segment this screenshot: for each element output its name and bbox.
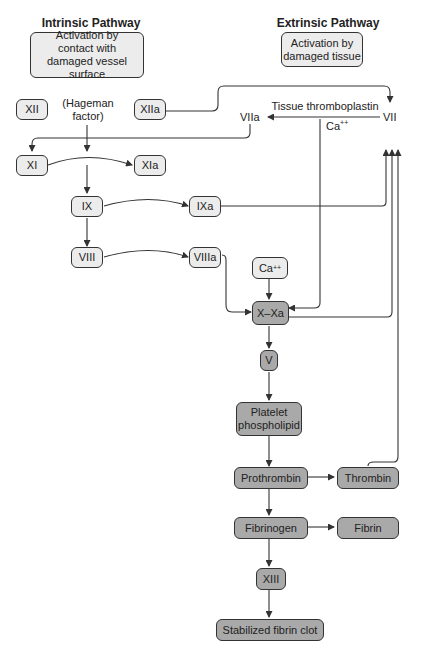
fibrinogen: Fibrinogen <box>234 517 308 539</box>
calcium-box: Ca++ <box>252 257 288 279</box>
factor-xia: XIa <box>134 155 166 176</box>
thrombin: Thrombin <box>337 467 399 489</box>
prothrombin: Prothrombin <box>234 467 308 489</box>
stabilized-fibrin-clot-label: Stabilized fibrin clot <box>223 624 318 637</box>
factor-xiii-label: XIII <box>263 573 280 586</box>
extrinsic-trigger-text: Activation by damaged tissue <box>282 37 362 63</box>
factor-v-label: V <box>265 354 272 367</box>
factor-xi-label: XI <box>27 159 37 172</box>
factor-viia-label: VIIa <box>240 111 260 124</box>
thrombin-label: Thrombin <box>345 472 391 485</box>
factor-viii-label: VIII <box>79 251 96 264</box>
factor-ixa: IXa <box>189 196 221 217</box>
calcium-label-top: Ca++ <box>326 120 348 133</box>
fibrinogen-label: Fibrinogen <box>245 522 297 535</box>
tissue-thromboplastin-label: Tissue thromboplastin <box>270 100 380 113</box>
factor-ix: IX <box>71 196 103 217</box>
fibrin: Fibrin <box>337 517 399 539</box>
factor-xiia-label: XIIa <box>140 103 160 116</box>
stabilized-fibrin-clot: Stabilized fibrin clot <box>216 619 324 641</box>
factor-xi: XI <box>16 155 48 176</box>
factor-viii: VIII <box>71 247 103 268</box>
factor-xia-label: XIa <box>142 159 159 172</box>
calcium-box-base: Ca <box>259 262 273 275</box>
factor-xiia: XIIa <box>134 99 166 120</box>
hageman-factor-label: (Hageman factor) <box>62 97 114 123</box>
factor-ix-label: IX <box>82 200 92 213</box>
factor-xiii: XIII <box>256 568 286 590</box>
factor-v: V <box>260 350 278 371</box>
prothrombin-label: Prothrombin <box>241 472 301 485</box>
calcium-superscript: ++ <box>340 119 348 126</box>
factor-x-xa: X–Xa <box>252 301 289 325</box>
extrinsic-pathway-title: Extrinsic Pathway <box>268 16 388 30</box>
factor-ixa-label: IXa <box>197 200 214 213</box>
intrinsic-pathway-title: Intrinsic Pathway <box>36 16 146 30</box>
intrinsic-trigger-box: Activation by contact with damaged vesse… <box>30 32 144 78</box>
factor-vii-label: VII <box>383 111 396 124</box>
platelet-phospholipid-label: Platelet phospholipid <box>237 406 301 432</box>
factor-x-xa-label: X–Xa <box>257 307 284 320</box>
intrinsic-trigger-text: Activation by contact with damaged vesse… <box>31 29 143 81</box>
fibrin-label: Fibrin <box>354 522 382 535</box>
factor-xii-label: XII <box>25 103 38 116</box>
factor-xii: XII <box>16 99 48 120</box>
calcium-base: Ca <box>326 120 340 132</box>
platelet-phospholipid: Platelet phospholipid <box>236 402 302 436</box>
factor-viiia: VIIIa <box>189 247 221 268</box>
factor-viiia-label: VIIIa <box>194 251 217 264</box>
extrinsic-trigger-box: Activation by damaged tissue <box>281 32 363 67</box>
